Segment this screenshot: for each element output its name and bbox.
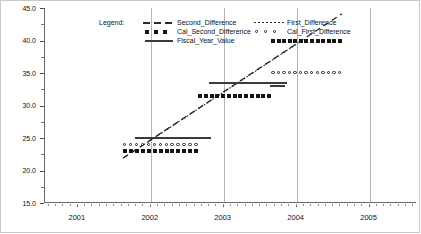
legend-label: Cal_First_Difference — [287, 27, 351, 36]
filled-square-marker — [261, 94, 265, 98]
open-circle-marker — [159, 143, 162, 146]
filled-square-marker — [147, 149, 151, 153]
open-circle-marker — [147, 143, 150, 146]
filled-square-marker — [210, 94, 214, 98]
x-minor-tick — [354, 204, 355, 206]
x-tick-label: 2005 — [349, 214, 389, 222]
open-circle-marker — [194, 143, 197, 146]
x-minor-tick — [412, 204, 413, 206]
solid-line-icon — [143, 36, 175, 45]
x-minor-tick — [62, 204, 63, 206]
chart-figure: 45.040.035.030.025.020.015.0 20012002200… — [0, 0, 421, 234]
legend-title: Legend: — [99, 19, 124, 26]
filled-square-marker — [221, 94, 225, 98]
open-circle-marker — [176, 143, 179, 146]
x-minor-tick — [77, 204, 78, 206]
x-minor-tick — [296, 204, 297, 206]
x-tick-label: 2003 — [203, 214, 243, 222]
x-minor-tick — [194, 204, 195, 206]
open-circle-marker — [182, 143, 185, 146]
filled-square-marker — [256, 94, 260, 98]
x-minor-tick — [332, 204, 333, 206]
x-tick-label: 2004 — [276, 214, 316, 222]
x-minor-tick — [398, 204, 399, 206]
legend-label: Cal_Second_Difference — [177, 27, 251, 36]
y-tick-label: 40.0 — [6, 37, 36, 44]
filled-square-marker — [194, 149, 198, 153]
x-minor-tick — [186, 204, 187, 206]
x-minor-tick — [142, 204, 143, 206]
x-minor-tick — [339, 204, 340, 206]
open-circle-marker — [288, 71, 291, 74]
x-minor-tick — [266, 204, 267, 206]
x-minor-tick — [347, 204, 348, 206]
x-minor-tick — [310, 204, 311, 206]
filled-square-marker — [233, 94, 237, 98]
filled-square-marker — [204, 94, 208, 98]
x-minor-tick — [303, 204, 304, 206]
legend-label: Fiscal_Year_Value — [177, 36, 235, 45]
open-circle-marker — [129, 143, 132, 146]
open-circle-marker — [304, 71, 307, 74]
open-circle-marker — [135, 143, 138, 146]
x-minor-tick — [84, 204, 85, 206]
x-minor-tick — [48, 204, 49, 206]
x-minor-tick — [208, 204, 209, 206]
x-minor-tick — [318, 204, 319, 206]
y-tick-label: 45.0 — [6, 5, 36, 12]
cal-second-difference-row — [198, 94, 271, 98]
open-circle-marker — [277, 71, 280, 74]
x-tick-label: 2002 — [130, 214, 170, 222]
fiscal-year-value-segment — [135, 137, 211, 139]
x-minor-tick — [215, 204, 216, 206]
filled-square-marker — [250, 94, 254, 98]
cal-first-difference-row — [123, 143, 198, 148]
open-circle-marker — [153, 143, 156, 146]
plot-area: Legend: Second_Difference Cal_Second_Dif… — [44, 8, 416, 203]
x-minor-tick — [237, 204, 238, 206]
open-circle-marker — [271, 71, 274, 74]
x-tick-label: 2001 — [57, 214, 97, 222]
x-minor-tick — [121, 204, 122, 206]
open-circle-marker — [141, 143, 144, 146]
dashed-line-icon — [143, 18, 175, 27]
x-minor-tick — [369, 204, 370, 206]
legend-label: Second_Difference — [177, 18, 236, 27]
filled-square-marker — [182, 149, 186, 153]
filled-square-marker — [165, 149, 169, 153]
y-tick-label: 15.0 — [6, 200, 36, 207]
x-minor-tick — [179, 204, 180, 206]
open-circle-marker — [170, 143, 173, 146]
x-minor-tick — [252, 204, 253, 206]
filled-square-marker — [238, 94, 242, 98]
open-circles-icon — [253, 27, 285, 36]
x-minor-tick — [245, 204, 246, 206]
filled-square-marker — [267, 94, 271, 98]
filled-square-marker — [135, 149, 139, 153]
open-circle-marker — [299, 71, 302, 74]
x-minor-tick — [274, 204, 275, 206]
x-minor-tick — [135, 204, 136, 206]
filled-square-marker — [244, 94, 248, 98]
open-circle-marker — [338, 71, 341, 74]
cal-second-difference-row — [123, 149, 198, 153]
filled-square-marker — [159, 149, 163, 153]
open-circle-marker — [293, 71, 296, 74]
x-minor-tick — [223, 204, 224, 206]
x-minor-tick — [405, 204, 406, 206]
x-minor-tick — [172, 204, 173, 206]
y-tick-label: 25.0 — [6, 135, 36, 142]
x-minor-tick — [157, 204, 158, 206]
filled-square-marker — [123, 149, 127, 153]
filled-square-marker — [170, 149, 174, 153]
filled-square-marker — [129, 149, 133, 153]
cal-first-difference-row — [271, 71, 342, 76]
fiscal-year-value-segment — [270, 85, 285, 87]
x-minor-tick — [259, 204, 260, 206]
y-tick-label: 30.0 — [6, 102, 36, 109]
x-minor-tick — [376, 204, 377, 206]
x-minor-tick — [106, 204, 107, 206]
x-minor-tick — [361, 204, 362, 206]
dotted-line-icon — [253, 18, 285, 27]
y-tick-label: 20.0 — [6, 167, 36, 174]
